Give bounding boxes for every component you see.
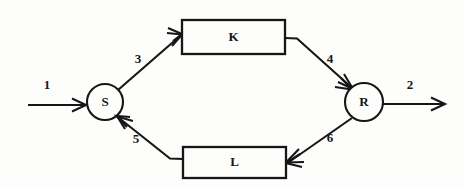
edge-2-r-to-output	[383, 98, 445, 111]
node-s: S	[87, 84, 123, 120]
edge-1-label: 1	[44, 77, 51, 92]
edge-5-l-to-s	[117, 116, 183, 159]
edge-6-r-to-l	[286, 118, 352, 167]
edge-6-arrowhead-inner	[286, 149, 304, 163]
edge-4-k-to-r	[285, 38, 353, 90]
diagram-canvas: K S R L	[0, 0, 463, 187]
node-s-label: S	[101, 94, 108, 109]
edge-4-line	[285, 38, 351, 87]
edge-6-label: 6	[327, 130, 334, 145]
edge-5-label: 5	[133, 131, 140, 146]
edge-1-input-to-s	[28, 99, 86, 112]
block-diagram: K S R L	[0, 0, 463, 187]
edge-2-label: 2	[407, 77, 414, 92]
edge-3-line	[118, 36, 180, 90]
block-l: L	[183, 147, 286, 178]
edge-3-s-to-k	[118, 28, 182, 90]
node-r: R	[345, 83, 383, 121]
edge-3-label: 3	[135, 51, 142, 66]
block-k-label: K	[228, 29, 239, 44]
block-l-label: L	[230, 154, 239, 169]
edge-4-label: 4	[327, 51, 334, 66]
node-r-label: R	[359, 94, 369, 109]
block-k: K	[182, 20, 285, 54]
edge-5-line	[119, 118, 183, 159]
